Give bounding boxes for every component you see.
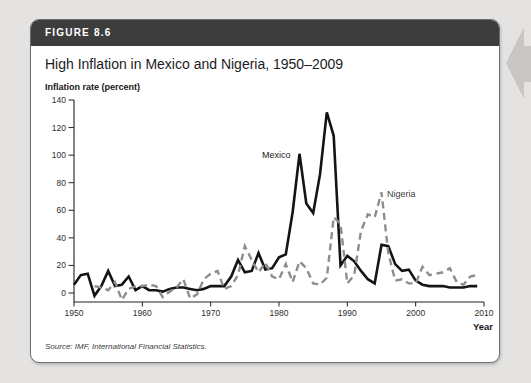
x-tick-label: 1980 [270,308,289,318]
axis-frame [74,100,484,302]
y-tick-label: 120 [52,123,66,133]
back-arrow-icon[interactable] [500,15,531,125]
y-tick-label: 20 [57,260,67,270]
y-tick-label: 60 [57,205,67,215]
y-tick-label: 40 [57,233,67,243]
figure-title: High Inflation in Mexico and Nigeria, 19… [45,56,485,72]
y-tick-label: 0 [61,288,66,298]
x-tick-label: 2010 [475,308,494,318]
series-line-mexico [74,112,477,295]
figure-number-label: FIGURE 8.6 [45,27,111,38]
y-tick-label: 100 [52,150,66,160]
figure-card: FIGURE 8.6 High Inflation in Mexico and … [30,19,500,363]
x-tick-label: 1970 [201,308,220,318]
series-label-nigeria: Nigeria [387,189,416,199]
x-tick-label: 1960 [133,308,152,318]
page-background: FIGURE 8.6 High Inflation in Mexico and … [0,0,531,383]
x-tick-label: 2000 [406,308,425,318]
y-tick-label: 140 [52,95,66,105]
y-tick-label: 80 [57,178,67,188]
x-axis-title: Year [473,321,493,332]
x-tick-label: 1950 [65,308,84,318]
figure-header-bar: FIGURE 8.6 [31,20,499,46]
series-label-mexico: Mexico [262,150,291,160]
source-note: Source: IMF, International Financial Sta… [45,342,207,351]
inflation-line-chart: 0204060801001201401950196019701980199020… [31,91,500,336]
x-tick-label: 1990 [338,308,357,318]
